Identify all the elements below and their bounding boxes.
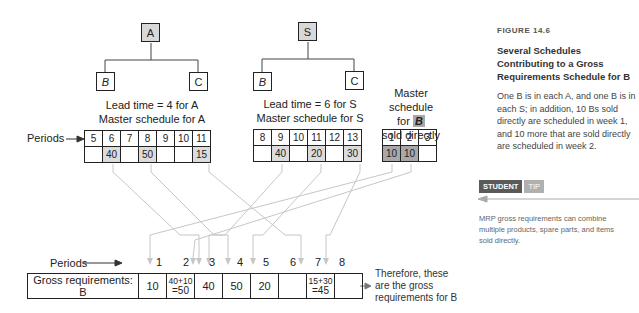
schedule-label-a: Master schedule for A <box>84 112 220 126</box>
gross-period: 4 <box>233 256 247 268</box>
gross-result: =45 <box>312 286 329 296</box>
note-line: requirements for B <box>375 292 457 304</box>
a-captions: Lead time = 4 for A Master schedule for … <box>84 98 220 126</box>
period-cell: 8 <box>254 130 272 146</box>
gross-requirements-row: Gross requirements: B 10 40+10=50 40 50 … <box>27 273 363 299</box>
direct-label-for: for <box>397 115 410 127</box>
gross-value: 40 <box>202 280 214 292</box>
period-cell: 9 <box>157 131 175 147</box>
gross-label: Gross requirements: B <box>28 274 138 298</box>
qty-cell <box>290 146 308 162</box>
direct-label-1: Master schedule <box>378 86 444 114</box>
period-cell: 11 <box>308 130 326 146</box>
period-cell: 8 <box>139 131 157 147</box>
gross-label-text: Gross requirements: B <box>28 274 138 298</box>
gross-period: 3 <box>205 256 219 268</box>
qty-cell: 40 <box>103 147 121 163</box>
period-cell: 6 <box>103 131 121 147</box>
lead-time-s: Lead time = 6 for S <box>240 97 380 111</box>
gross-period: 2 <box>179 256 193 268</box>
student-tip-badge: STUDENT TIP <box>479 180 544 193</box>
qty-cell: 40 <box>272 146 290 162</box>
period-cell: 9 <box>272 130 290 146</box>
schedule-table-a: 5 6 7 8 9 10 11 40 50 15 <box>84 130 211 163</box>
gross-cell: 15+30=45 <box>306 274 334 298</box>
qty-cell: 50 <box>139 147 157 163</box>
node-s-label: S <box>304 26 311 38</box>
gross-value: 50 <box>230 280 242 292</box>
quantity-row: 40 20 30 <box>254 146 362 162</box>
qty-cell <box>419 146 437 162</box>
qty-cell: 30 <box>344 146 362 162</box>
gross-cell <box>334 274 362 298</box>
period-cell: 12 <box>326 130 344 146</box>
figure-description: One B is in each A, and one B is in each… <box>497 90 639 153</box>
gross-period: 1 <box>152 256 166 268</box>
note-line: are the gross <box>375 280 457 292</box>
qty-cell <box>326 146 344 162</box>
schedule-table-s: 8 9 10 11 12 13 40 20 30 <box>253 129 362 162</box>
figure-label: FIGURE 14.6 <box>497 26 551 35</box>
node-a: A <box>141 23 160 42</box>
node-s-child-c: C <box>345 71 364 90</box>
periods-row: 1 2 3 <box>383 130 437 146</box>
gross-period: 6 <box>286 256 300 268</box>
gross-cell: 50 <box>222 274 250 298</box>
gross-period: 5 <box>259 256 273 268</box>
node-label: C <box>195 76 203 88</box>
period-cell: 13 <box>344 130 362 146</box>
qty-cell <box>121 147 139 163</box>
gross-period: 7 <box>311 256 325 268</box>
node-a-child-c: C <box>189 72 208 91</box>
gross-cell <box>278 274 306 298</box>
node-a-label: A <box>147 27 154 39</box>
period-cell: 1 <box>383 130 401 146</box>
gross-cell: 20 <box>250 274 278 298</box>
gross-cell: 10 <box>138 274 166 298</box>
node-label: B <box>102 76 109 88</box>
gross-value: 20 <box>258 280 270 292</box>
quantity-row: 40 50 15 <box>85 147 211 163</box>
lead-time-a: Lead time = 4 for A <box>84 98 220 112</box>
schedule-table-direct-b: 1 2 3 10 10 <box>382 129 437 162</box>
periods-row: 5 6 7 8 9 10 11 <box>85 131 211 147</box>
period-cell: 5 <box>85 131 103 147</box>
node-s: S <box>298 22 317 41</box>
periods-label-top: Periods <box>27 132 64 144</box>
period-cell: 10 <box>290 130 308 146</box>
qty-cell: 10 <box>401 146 419 162</box>
gross-cell: 40 <box>194 274 222 298</box>
gross-period: 8 <box>335 256 349 268</box>
gross-result: =50 <box>172 286 189 296</box>
schedule-label-s: Master schedule for S <box>240 111 380 125</box>
student-tip-text: MRP gross requirements can combine multi… <box>479 213 629 246</box>
qty-cell: 10 <box>383 146 401 162</box>
qty-cell <box>85 147 103 163</box>
gross-cell: 40+10=50 <box>166 274 194 298</box>
node-s-child-b: B <box>253 72 272 91</box>
period-cell: 11 <box>193 131 211 147</box>
node-a-child-b: B <box>96 72 115 91</box>
direct-item-b: B <box>413 115 425 127</box>
gross-value: 10 <box>146 280 158 292</box>
qty-cell <box>157 147 175 163</box>
qty-cell <box>175 147 193 163</box>
quantity-row: 10 10 <box>383 146 437 162</box>
tip-tag-tip: TIP <box>524 180 544 193</box>
qty-cell: 20 <box>308 146 326 162</box>
node-label: C <box>351 75 359 87</box>
periods-label-bottom: Periods <box>50 257 87 269</box>
qty-cell <box>254 146 272 162</box>
note-line: Therefore, these <box>375 268 457 280</box>
node-label: B <box>259 76 266 88</box>
therefore-note: Therefore, these are the gross requireme… <box>375 268 457 304</box>
period-cell: 2 <box>401 130 419 146</box>
s-captions: Lead time = 6 for S Master schedule for … <box>240 97 380 125</box>
tip-tag-student: STUDENT <box>479 180 522 193</box>
periods-row: 8 9 10 11 12 13 <box>254 130 362 146</box>
figure-title: Several Schedules Contributing to a Gros… <box>497 44 637 83</box>
period-cell: 7 <box>121 131 139 147</box>
direct-label-2: for B <box>378 114 444 128</box>
period-cell: 10 <box>175 131 193 147</box>
period-cell: 3 <box>419 130 437 146</box>
